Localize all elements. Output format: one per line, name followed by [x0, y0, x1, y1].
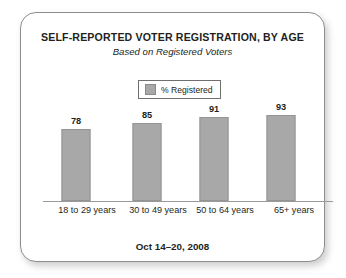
bar	[62, 129, 91, 201]
chart-screenshot: SELF-REPORTED VOTER REGISTRATION, BY AGE…	[0, 0, 346, 278]
chart-title: SELF-REPORTED VOTER REGISTRATION, BY AGE	[21, 31, 324, 43]
bar-value-label: 91	[209, 104, 219, 114]
bar	[267, 115, 296, 201]
x-axis-line	[43, 201, 333, 202]
chart-footer-date: Oct 14–20, 2008	[21, 241, 324, 252]
plot-area: 78 85 91 93	[43, 109, 313, 201]
bar	[200, 117, 229, 201]
bar	[133, 123, 162, 201]
x-axis-tick-label: 18 to 29 years	[54, 205, 120, 215]
chart-card: SELF-REPORTED VOTER REGISTRATION, BY AGE…	[20, 12, 325, 262]
bar-column: 78	[43, 109, 109, 201]
bar-value-label: 85	[142, 110, 152, 120]
bar-value-label: 78	[71, 116, 81, 126]
bar-column: 85	[114, 109, 180, 201]
legend-swatch-icon	[145, 84, 156, 95]
x-axis-tick-label: 50 to 64 years	[192, 205, 258, 215]
chart-subtitle: Based on Registered Voters	[21, 46, 324, 57]
bar-column: 93	[248, 109, 314, 201]
x-axis-tick-labels: 18 to 29 years 30 to 49 years 50 to 64 y…	[43, 205, 333, 221]
x-axis-tick-label: 65+ years	[261, 205, 327, 215]
x-axis-tick-label: 30 to 49 years	[125, 205, 191, 215]
bar-column: 91	[181, 109, 247, 201]
legend-item-label: % Registered	[161, 85, 213, 95]
chart-legend: % Registered	[138, 80, 221, 99]
bar-value-label: 93	[276, 102, 286, 112]
